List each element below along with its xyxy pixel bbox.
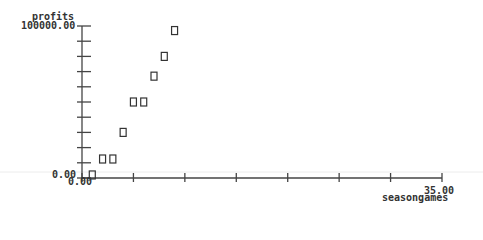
data-point-marker (141, 98, 147, 106)
data-point-marker (130, 98, 136, 106)
y-max-label: 100000.00 (21, 21, 75, 31)
data-point-marker (151, 72, 157, 80)
x-min-label: 0.00 (68, 177, 92, 187)
data-points (89, 27, 177, 179)
x-axis-title: seasongames (382, 193, 448, 203)
data-point-marker (161, 52, 167, 60)
data-point-marker (110, 155, 116, 163)
data-point-marker (100, 155, 106, 163)
data-point-marker (120, 128, 126, 136)
data-point-marker (172, 27, 178, 35)
axes (77, 26, 442, 182)
